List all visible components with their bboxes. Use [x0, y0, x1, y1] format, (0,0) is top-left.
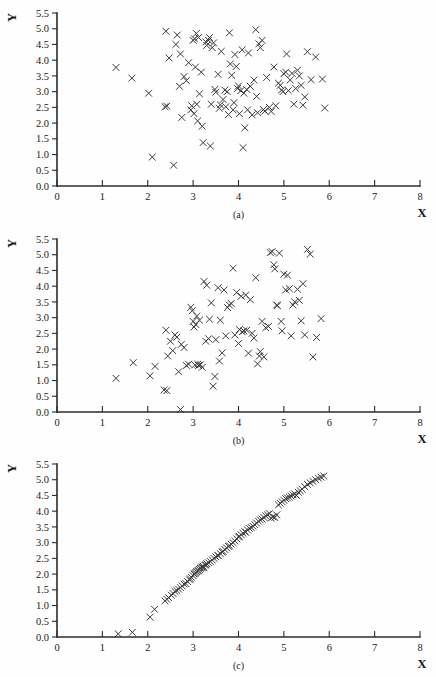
data-point-marker	[245, 50, 252, 57]
data-point-marker	[265, 323, 272, 330]
data-point-marker	[228, 300, 235, 307]
y-axis-title: Y	[5, 239, 19, 248]
x-axis-title: X	[417, 206, 426, 220]
x-tick-label: 7	[372, 417, 377, 428]
data-point-marker	[194, 117, 201, 124]
data-point-marker	[152, 363, 159, 370]
panel-c: 0.00.51.01.52.02.53.03.54.04.55.05.50123…	[0, 451, 436, 677]
data-point-marker	[238, 293, 245, 300]
y-tick-label: 2.5	[36, 553, 49, 564]
y-tick-label: 4.0	[36, 281, 49, 292]
x-tick-label: 5	[281, 191, 286, 202]
data-point-marker	[130, 359, 137, 366]
y-tick-label: 3.0	[36, 312, 49, 323]
y-tick-label: 0.0	[36, 181, 49, 192]
x-tick-label: 0	[54, 191, 59, 202]
data-point-marker	[241, 124, 248, 131]
y-tick-label: 1.0	[36, 149, 49, 160]
y-tick-label: 4.5	[36, 39, 49, 50]
data-point-marker	[169, 347, 176, 354]
y-tick-label: 3.0	[36, 537, 49, 548]
data-point-marker	[318, 315, 325, 322]
x-tick-label: 3	[191, 642, 196, 653]
data-point-marker	[254, 360, 261, 367]
data-point-marker	[283, 50, 290, 57]
data-point-marker	[219, 349, 226, 356]
data-point-marker	[319, 76, 326, 83]
data-point-marker	[282, 69, 289, 76]
y-tick-label: 2.0	[36, 344, 49, 355]
data-point-marker	[276, 250, 283, 257]
y-tick-label: 1.5	[36, 584, 49, 595]
panel-caption: (b)	[233, 435, 245, 447]
y-tick-label: 3.5	[36, 297, 49, 308]
data-point-marker	[300, 280, 307, 287]
panel-caption: (c)	[233, 660, 244, 672]
data-point-marker	[191, 110, 198, 117]
data-point-marker	[259, 37, 266, 44]
x-tick-label: 7	[372, 191, 377, 202]
y-tick-label: 0.5	[36, 165, 49, 176]
data-point-marker	[228, 72, 235, 79]
data-point-marker	[196, 317, 203, 324]
data-point-marker	[212, 373, 219, 380]
data-point-marker	[215, 284, 222, 291]
data-point-marker	[279, 327, 286, 334]
x-tick-label: 4	[236, 417, 242, 428]
data-point-marker	[300, 102, 307, 109]
plot-b-axes: 0.00.51.01.52.02.53.03.54.04.55.05.50123…	[36, 234, 423, 428]
data-point-marker	[247, 296, 254, 303]
x-tick-label: 5	[281, 417, 286, 428]
data-point-marker	[278, 318, 285, 325]
data-point-marker	[193, 101, 200, 108]
data-point-marker	[227, 61, 234, 68]
data-point-marker	[310, 354, 317, 361]
x-tick-label: 6	[327, 642, 332, 653]
y-tick-label: 5.5	[36, 234, 49, 245]
data-point-marker	[188, 102, 195, 109]
data-point-marker	[163, 28, 170, 35]
data-point-marker	[149, 154, 156, 161]
data-point-marker	[215, 71, 222, 78]
data-point-marker	[233, 289, 240, 296]
x-tick-label: 6	[327, 417, 332, 428]
data-point-marker	[203, 282, 210, 289]
data-point-marker	[259, 318, 266, 325]
data-point-marker	[173, 334, 180, 341]
data-point-marker	[236, 110, 243, 117]
data-point-marker	[320, 473, 327, 480]
data-point-marker	[206, 316, 213, 323]
x-tick-label: 2	[145, 417, 150, 428]
plot-c-svg: 0.00.51.01.52.02.53.03.54.04.55.05.50123…	[0, 451, 436, 677]
y-tick-label: 3.5	[36, 71, 49, 82]
data-point-marker	[274, 302, 281, 309]
data-point-marker	[241, 90, 248, 97]
x-tick-label: 0	[54, 417, 59, 428]
x-tick-label: 4	[236, 191, 242, 202]
data-point-marker	[192, 321, 199, 328]
data-point-marker	[198, 69, 205, 76]
data-point-marker	[301, 332, 308, 339]
x-tick-label: 3	[191, 191, 196, 202]
data-point-marker	[205, 335, 212, 342]
data-point-marker	[147, 614, 154, 621]
data-point-marker	[285, 87, 292, 94]
data-point-marker	[308, 76, 315, 83]
data-point-marker	[304, 48, 311, 55]
data-point-marker	[251, 77, 258, 84]
data-point-marker	[207, 143, 214, 150]
data-point-marker	[212, 336, 219, 343]
x-tick-label: 8	[417, 417, 422, 428]
data-point-marker	[233, 63, 240, 70]
data-point-marker	[290, 101, 297, 108]
y-tick-label: 1.5	[36, 133, 49, 144]
y-tick-label: 1.0	[36, 600, 49, 611]
x-tick-label: 8	[417, 642, 422, 653]
data-point-marker	[208, 299, 215, 306]
data-point-marker	[277, 82, 284, 89]
panel-caption: (a)	[233, 209, 244, 221]
y-axis-title: Y	[5, 464, 19, 473]
data-point-marker	[208, 101, 215, 108]
y-tick-label: 5.0	[36, 23, 49, 34]
y-tick-label: 0.5	[36, 616, 49, 627]
